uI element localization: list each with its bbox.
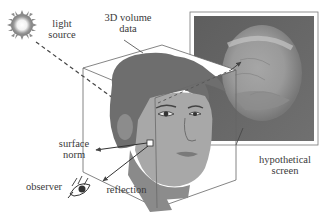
- brain-image: [222, 25, 302, 121]
- hypothetical-screen-label: hypothetical screen: [250, 154, 320, 176]
- sun-icon: [7, 10, 37, 40]
- sample-point: [147, 140, 153, 146]
- surface-norm-label: surface norm: [54, 138, 94, 160]
- eye-icon: [68, 176, 90, 198]
- observer-label: observer: [24, 181, 64, 192]
- light-source-label: light source: [42, 18, 82, 40]
- volume-data-label: 3D volume data: [98, 12, 158, 34]
- volume-pointer: [124, 40, 143, 53]
- reflection-label: reflection: [104, 184, 149, 195]
